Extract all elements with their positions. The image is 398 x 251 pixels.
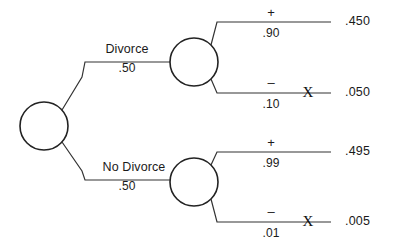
outcome-sign-divorce-positive: +: [267, 6, 275, 19]
branch-probability-divorce: .50: [119, 62, 136, 74]
outcome-probability-divorce-negative: .10: [263, 98, 280, 110]
edge-root-to-divorce: [62, 62, 170, 110]
outcome-payoff-divorce-positive: .450: [345, 15, 370, 28]
outcome-probability-divorce-positive: .90: [263, 27, 280, 39]
outcome-sign-divorce-negative: –: [267, 76, 274, 89]
outcome-payoff-divorce-negative: .050: [345, 86, 370, 99]
outcome-x-marker-no-divorce-negative: X: [303, 214, 314, 229]
outcome-probability-no-divorce-negative: .01: [263, 227, 280, 239]
tree-lines: [0, 0, 398, 251]
outcome-sign-no-divorce-negative: –: [267, 205, 274, 218]
outcome-sign-no-divorce-positive: +: [267, 136, 275, 149]
decision-tree-diagram: Divorce .50 No Divorce .50 + .90 .450 – …: [0, 0, 398, 251]
branch-label-no-divorce: No Divorce: [103, 161, 166, 174]
outcome-x-marker-divorce-negative: X: [303, 85, 314, 100]
divorce-chance-node: [170, 38, 218, 86]
branch-probability-no-divorce: .50: [119, 180, 136, 192]
outcome-payoff-no-divorce-negative: .005: [345, 215, 370, 228]
outcome-payoff-no-divorce-positive: .495: [345, 145, 370, 158]
branch-label-divorce: Divorce: [105, 43, 148, 56]
no-divorce-chance-node: [170, 158, 218, 206]
outcome-probability-no-divorce-positive: .99: [263, 157, 280, 169]
root-chance-node: [20, 102, 68, 150]
